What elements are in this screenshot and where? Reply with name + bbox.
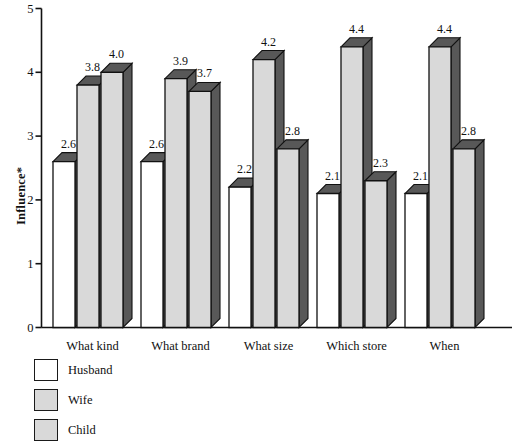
bar-value-label: 2.3: [357, 157, 404, 169]
legend-swatch-child: [34, 419, 58, 441]
bar-value-label: 2.6: [45, 138, 92, 150]
legend-label-wife: Wife: [68, 394, 92, 407]
y-axis-tick-label: 2: [16, 194, 34, 207]
legend-label-child: Child: [68, 424, 96, 437]
y-axis-tick-label: 3: [16, 130, 34, 143]
bar-value-label: 3.7: [181, 67, 228, 79]
bar-value-label: 4.0: [93, 48, 140, 60]
bar-value-label: 2.6: [133, 138, 180, 150]
bar-value-label: 2.1: [309, 170, 356, 182]
y-axis-tick-label: 5: [16, 3, 34, 16]
legend-item-husband: Husband: [34, 357, 112, 383]
legend-swatch-husband: [34, 359, 58, 381]
legend-item-child: Child: [34, 417, 112, 443]
y-axis-tick-label: 0: [16, 322, 34, 335]
legend-swatch-wife: [34, 389, 58, 411]
legend-label-husband: Husband: [68, 364, 112, 377]
y-axis-tick-label: 1: [16, 258, 34, 271]
bar-value-label: 2.1: [397, 170, 444, 182]
bar-value-label: 4.4: [333, 23, 380, 35]
bar-chart: Influence* Husband Wife Child 0123452.63…: [0, 0, 519, 446]
bar-value-label: 4.4: [421, 23, 468, 35]
bar-value-label: 2.2: [221, 163, 268, 175]
y-axis-tick-label: 4: [16, 66, 34, 79]
legend: Husband Wife Child: [34, 357, 112, 446]
legend-item-wife: Wife: [34, 387, 112, 413]
bar-value-label: 2.8: [269, 125, 316, 137]
bar-value-label: 3.9: [157, 55, 204, 67]
bar-value-label: 2.8: [445, 125, 492, 137]
bar-value-label: 3.8: [69, 61, 116, 73]
x-axis-category-label: When: [385, 340, 505, 353]
bar-value-label: 4.2: [245, 36, 292, 48]
